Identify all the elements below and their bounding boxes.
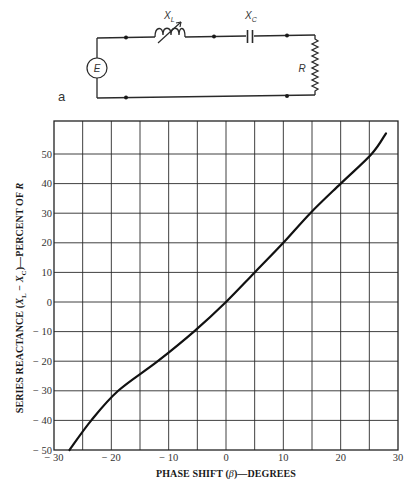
source-label: E (94, 63, 101, 74)
circuit-diagram: E XL XC R (58, 10, 318, 104)
junction-dots (124, 34, 289, 100)
y-tick-label: 0 (47, 297, 52, 308)
x-axis-ticks: − 30− 20− 100102030 (44, 452, 403, 463)
figure: E XL XC R (0, 0, 416, 492)
y-tick-label: − 40 (33, 415, 52, 426)
x-tick-label: − 20 (102, 452, 121, 463)
y-tick-label: 30 (42, 208, 53, 219)
y-axis-ticks: − 50− 40− 30− 20− 1001020304050 (33, 149, 52, 456)
y-tick-label: 10 (42, 267, 53, 278)
capacitor-label: XC (244, 10, 258, 23)
x-tick-label: 0 (223, 452, 228, 463)
y-tick-label: − 20 (33, 356, 52, 367)
grid-lines (54, 121, 398, 450)
top-wire-right (254, 35, 315, 36)
y-tick-label: − 10 (33, 326, 52, 337)
resistor-icon (312, 35, 318, 95)
x-tick-label: 10 (278, 452, 289, 463)
capacitor-icon (248, 30, 253, 43)
bottom-wire (97, 95, 315, 98)
x-axis-title: PHASE SHIFT (β)—DEGREES (156, 468, 296, 480)
resistor-label: R (298, 63, 305, 74)
y-tick-label: − 30 (33, 385, 52, 396)
x-tick-label: 30 (393, 452, 404, 463)
variable-inductor-icon (155, 22, 185, 43)
x-tick-label: − 10 (159, 452, 178, 463)
y-tick-label: 40 (42, 178, 53, 189)
x-tick-label: − 30 (44, 452, 63, 463)
y-tick-label: 20 (42, 237, 53, 248)
phase-shift-chart: − 50− 40− 30− 20− 1001020304050 − 30− 20… (14, 121, 403, 480)
inductor-label: XL (163, 10, 175, 23)
panel-label: a (58, 89, 66, 104)
x-tick-label: 20 (335, 452, 346, 463)
reactance-curve (70, 133, 387, 450)
y-axis-title: SERIES REACTANCE (XL − XC)—PERCENT OF R (14, 183, 28, 414)
y-tick-label: 50 (42, 149, 53, 160)
